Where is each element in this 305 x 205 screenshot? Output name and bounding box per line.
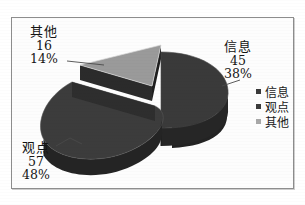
data-label-info-percent: 38% xyxy=(224,67,252,80)
legend-item-other[interactable]: 其他 xyxy=(256,114,294,128)
data-label-other-name: 其他 xyxy=(30,25,58,39)
data-label-view: 观点 57 48% xyxy=(22,141,50,181)
legend-item-view[interactable]: 观点 xyxy=(256,99,294,113)
data-label-view-name: 观点 xyxy=(22,141,50,155)
data-label-view-percent: 48% xyxy=(22,168,50,181)
legend-swatch-icon-view xyxy=(256,104,261,109)
data-label-info: 信息 45 38% xyxy=(224,40,252,80)
data-label-other: 其他 16 14% xyxy=(30,25,58,65)
legend-label-other: 其他 xyxy=(265,113,290,130)
data-label-info-value: 45 xyxy=(224,54,252,67)
data-label-other-percent: 14% xyxy=(30,52,58,65)
chart-legend: 信息 观点 其他 xyxy=(256,84,294,129)
data-label-info-name: 信息 xyxy=(224,40,252,54)
legend-item-info[interactable]: 信息 xyxy=(256,84,294,98)
pie-slice-info[interactable] xyxy=(161,52,228,148)
pie-chart-plot-area: 其他 16 14% 信息 45 38% 观点 57 48% 信息 观点 xyxy=(12,18,295,190)
data-label-view-value: 57 xyxy=(22,155,50,168)
data-label-other-value: 16 xyxy=(30,39,58,52)
chart-frame: 其他 16 14% 信息 45 38% 观点 57 48% 信息 观点 xyxy=(11,17,294,189)
legend-swatch-icon-info xyxy=(256,89,261,94)
legend-swatch-icon-other xyxy=(256,119,261,124)
